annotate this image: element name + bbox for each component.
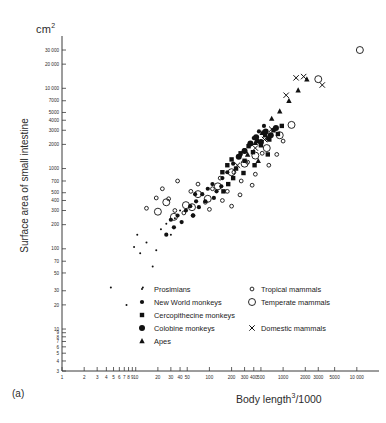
data-point	[225, 189, 229, 193]
y-tick-label: 10	[54, 327, 60, 332]
x-axis: 1234567891020304050100200300400500100020…	[61, 367, 379, 380]
data-point	[165, 223, 167, 225]
data-point	[262, 124, 266, 128]
x-tick-label: 3	[96, 375, 99, 380]
x-tick-label: 10 000	[350, 375, 364, 380]
data-point	[281, 139, 285, 143]
y-tick-label: 400	[51, 198, 59, 203]
x-tick-label: 3000	[313, 375, 324, 380]
data-point	[266, 152, 270, 156]
data-points-layer	[110, 47, 364, 306]
data-point	[160, 228, 162, 230]
y-tick-label: 70	[54, 259, 60, 264]
data-point	[229, 157, 233, 161]
data-point	[263, 145, 270, 152]
legend-label: Prosimians	[154, 285, 191, 294]
x-tick-label: 40	[178, 375, 184, 380]
x-tick-label: 20	[155, 375, 161, 380]
data-point	[141, 288, 143, 290]
y-tick-label: 4000	[49, 118, 60, 123]
x-tick-label: 50	[185, 375, 191, 380]
data-point	[236, 154, 242, 160]
data-point	[239, 179, 243, 183]
x-tick-label: 30	[168, 375, 174, 380]
data-point	[170, 234, 172, 236]
data-point	[196, 182, 200, 186]
chart-legend: ProsimiansNew World monkeysCercopithecin…	[139, 285, 330, 346]
y-tick-label: 200	[51, 222, 59, 227]
y-tick-label: 5	[56, 351, 59, 356]
data-point	[154, 196, 158, 200]
y-tick-label: 3	[56, 369, 59, 374]
x-tick-label: 10	[133, 375, 139, 380]
data-point	[320, 82, 325, 87]
data-point	[125, 304, 127, 306]
data-point	[275, 153, 279, 157]
data-point	[315, 76, 322, 83]
legend-item-cercopithecine-monkeys: Cercopithecine monkeys	[140, 311, 235, 320]
data-point	[242, 148, 248, 154]
data-point	[253, 134, 259, 140]
x-tick-label: 2000	[300, 375, 311, 380]
legend-label: Tropical mammals	[261, 285, 321, 294]
y-tick-label: 2000	[49, 142, 60, 147]
data-point	[174, 217, 176, 219]
x-tick-label: 5000	[330, 375, 341, 380]
legend-item-colobine-monkeys: Colobine monkeys	[139, 324, 215, 333]
data-point	[283, 93, 288, 98]
data-point	[288, 121, 295, 128]
data-point	[252, 163, 256, 167]
y-tick-label: 500	[51, 190, 59, 195]
y-tick-label: 1000	[49, 166, 60, 171]
data-point	[225, 163, 229, 167]
x-tick-label: 200	[228, 375, 236, 380]
data-point	[301, 74, 306, 79]
y-tick-label: 100	[51, 246, 59, 251]
data-point	[110, 286, 112, 288]
x-tick-label: 500	[257, 375, 265, 380]
legend-item-apes: Apes	[139, 337, 171, 346]
data-point	[230, 204, 234, 208]
data-point	[145, 241, 147, 243]
y-tick-label: 4	[56, 359, 59, 364]
x-tick-label: 300	[241, 375, 249, 380]
data-point	[267, 163, 271, 167]
y-axis-unit-label: cm2	[36, 22, 55, 35]
legend-item-new-world-monkeys: New World monkeys	[140, 298, 222, 307]
legend-label: Apes	[154, 337, 171, 346]
data-point	[269, 116, 274, 121]
data-point	[139, 338, 144, 343]
data-point	[155, 249, 157, 251]
data-point	[179, 210, 181, 212]
x-axis-title: Body length3/1000	[236, 392, 322, 405]
data-point	[139, 325, 145, 331]
legend-item-temperate-mammals: Temperate mammals	[249, 298, 331, 307]
data-point	[210, 182, 214, 186]
data-point	[273, 125, 279, 131]
data-point	[231, 162, 235, 166]
data-point	[180, 220, 184, 224]
y-axis: 3456789102030507010020030040050070010002…	[45, 36, 66, 374]
y-tick-label: 7	[56, 339, 59, 344]
legend-item-domestic-mammals: Domestic mammals	[249, 324, 326, 333]
x-tick-label: 5	[112, 375, 115, 380]
y-tick-label: 30	[54, 288, 60, 293]
data-point	[208, 207, 212, 211]
y-tick-label: 3000	[49, 128, 60, 133]
x-tick-label: 100	[206, 375, 214, 380]
data-point	[293, 75, 298, 80]
y-axis-title: Surface area of small intestine	[19, 76, 30, 296]
data-point	[172, 225, 176, 229]
y-axis-ticks: 3456789102030507010020030040050070010002…	[45, 48, 66, 374]
data-point	[356, 47, 363, 54]
legend-label: Domestic mammals	[261, 324, 326, 333]
x-tick-label: 1000	[278, 375, 289, 380]
y-tick-label: 10 000	[45, 86, 59, 91]
y-tick-label: 6	[56, 345, 59, 350]
data-point	[226, 182, 230, 186]
legend-item-tropical-mammals: Tropical mammals	[250, 285, 321, 294]
data-point	[295, 87, 300, 92]
legend-item-prosimians: Prosimians	[141, 285, 191, 294]
data-point	[280, 124, 284, 128]
data-point	[220, 170, 224, 174]
